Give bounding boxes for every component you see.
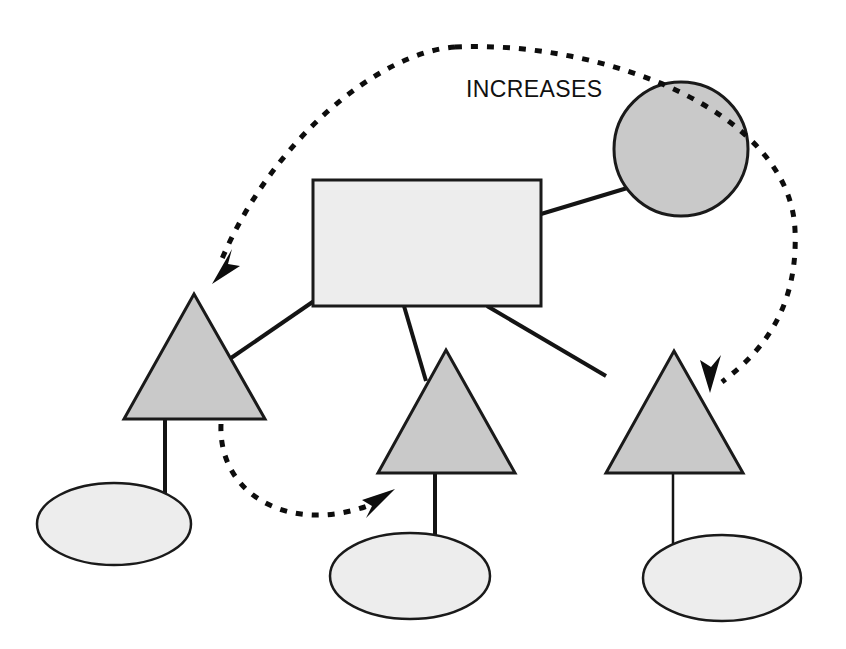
triangle-middle[interactable] (378, 350, 515, 473)
connector-rect-to-triangle-left (231, 301, 314, 358)
ellipse-middle[interactable] (330, 533, 490, 619)
rectangle-node[interactable] (313, 180, 541, 306)
diagram-canvas: INCREASES (0, 0, 846, 649)
triangle-right[interactable] (606, 351, 743, 473)
triangle-left[interactable] (124, 294, 265, 419)
arrow-head-right (700, 355, 721, 393)
connector-rect-to-triangle-right (487, 306, 606, 376)
connector-rect-to-circle (541, 186, 634, 214)
ellipse-left[interactable] (37, 483, 191, 565)
diagram-svg: INCREASES (0, 0, 846, 649)
dashed-arrow-to-triangle-middle (221, 424, 370, 515)
arrow-head-middle (362, 489, 395, 518)
circle-node[interactable] (614, 82, 748, 216)
connector-rect-to-triangle-middle (404, 306, 426, 381)
increases-label: INCREASES (466, 76, 603, 102)
ellipse-right[interactable] (643, 535, 801, 621)
